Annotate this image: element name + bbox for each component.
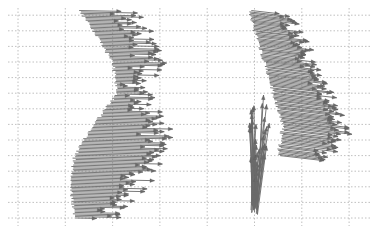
arrow-field [70, 9, 352, 220]
quiver-plot [0, 0, 374, 235]
arrow [75, 216, 121, 220]
